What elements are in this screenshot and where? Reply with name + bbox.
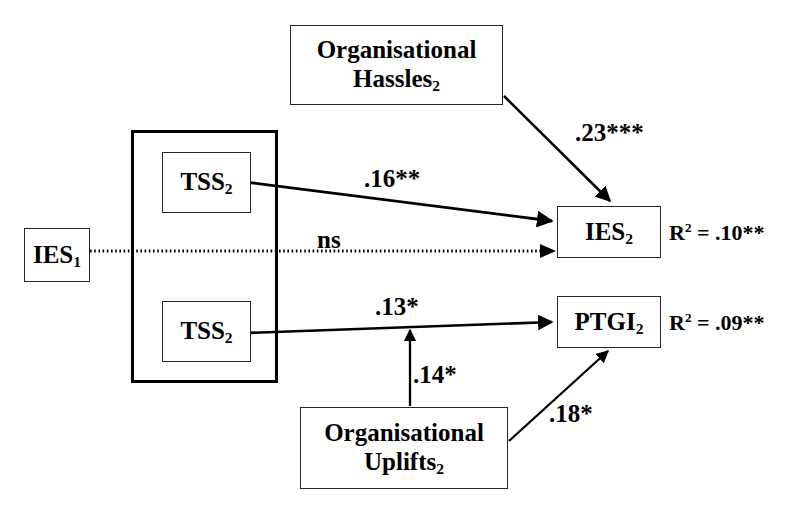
node-tss2-upper-label: TSS2	[180, 168, 232, 197]
path-label-uplifts-to-ptgi2: .18*	[549, 401, 593, 426]
node-tss2-lower[interactable]: TSS2	[162, 301, 251, 362]
node-organisational-hassles-label: OrganisationalHassles2	[317, 36, 477, 94]
node-tss2-upper[interactable]: TSS2	[162, 152, 251, 213]
node-organisational-hassles[interactable]: OrganisationalHassles2	[290, 25, 503, 105]
node-ies1[interactable]: IES1	[24, 228, 90, 282]
edge-uplifts-to-ptgi2	[509, 351, 608, 441]
path-label-ies1-to-ies2: ns	[317, 227, 341, 252]
r-squared-ies2: R2 = .10**	[669, 221, 765, 244]
path-diagram-canvas: IES1 TSS2 TSS2 OrganisationalHassles2 Or…	[0, 0, 794, 510]
node-organisational-uplifts-label: OrganisationalUplifts2	[324, 419, 484, 477]
node-tss2-lower-label: TSS2	[180, 317, 232, 346]
node-ies2-label: IES2	[585, 218, 633, 247]
edge-hassles-to-ies2	[504, 96, 610, 201]
node-ies1-label: IES1	[33, 241, 81, 270]
node-ptgi2[interactable]: PTGI2	[557, 296, 661, 348]
path-label-uplifts-to-path: .14*	[413, 362, 457, 387]
path-label-tss-lower-to-ptgi2: .13*	[375, 294, 419, 319]
edge-tss-lower-to-ptgi2	[245, 322, 552, 333]
r-squared-ptgi2: R2 = .09**	[669, 311, 765, 334]
node-ies2[interactable]: IES2	[557, 206, 661, 258]
path-label-hassles-to-ies2: .23***	[575, 120, 644, 145]
path-label-tss-upper-to-ies2: .16**	[364, 166, 420, 191]
edge-ies1-to-ies2-arrowhead	[540, 244, 556, 258]
node-ptgi2-label: PTGI2	[575, 308, 644, 337]
node-organisational-uplifts[interactable]: OrganisationalUplifts2	[300, 407, 508, 489]
